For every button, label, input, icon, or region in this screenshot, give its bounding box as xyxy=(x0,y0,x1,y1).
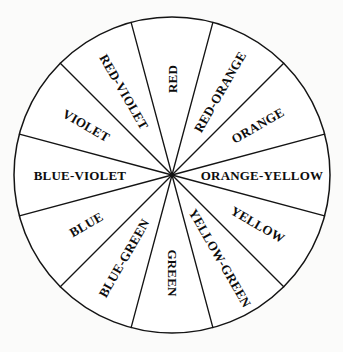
sector-label-blue-violet: BLUE-VIOLET xyxy=(34,168,127,183)
sector-label-orange-yellow: ORANGE-YELLOW xyxy=(201,168,324,183)
color-wheel-svg: REDRED-ORANGEORANGEORANGE-YELLOWYELLOWYE… xyxy=(0,0,343,352)
color-wheel-diagram: REDRED-ORANGEORANGEORANGE-YELLOWYELLOWYE… xyxy=(0,0,343,352)
sector-label-green: GREEN xyxy=(165,249,180,297)
sector-label-red: RED xyxy=(165,65,180,93)
